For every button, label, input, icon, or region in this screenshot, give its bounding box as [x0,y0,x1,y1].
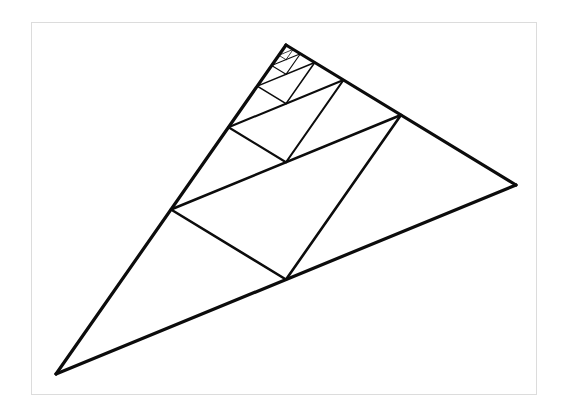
medial-edge-level-1-a [171,210,286,280]
triangle-line-group [56,45,516,374]
medial-edge-level-2-a [229,127,287,162]
medial-edge-level-3-a [257,86,286,104]
medial-edge-level-4-a [272,66,286,75]
figure-canvas [0,0,564,420]
medial-edge-level-5-a [279,55,286,59]
recursive-triangle-figure [0,0,564,420]
